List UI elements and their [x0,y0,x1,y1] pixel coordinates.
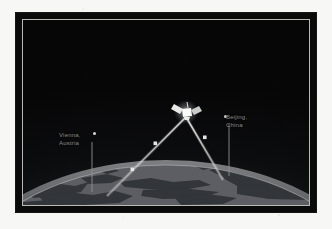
page-background: Vienna, Austria Beijing, China [0,0,332,229]
label-beijing: Beijing, China [226,114,247,129]
label-beijing-line-2: China [226,122,247,130]
ground-station-marker-icon [93,132,96,135]
photo-frame: Vienna, Austria Beijing, China [16,13,316,212]
label-vienna: Vienna, Austria [59,132,81,147]
beam-waypoint-marker [154,142,158,146]
label-beijing-line-1: Beijing, [226,114,247,122]
label-vienna-line-1: Vienna, [59,132,81,140]
space-scene: Vienna, Austria Beijing, China [23,20,309,205]
beam-waypoint-marker [131,168,135,172]
beam-waypoint-marker [203,136,207,140]
satellite-transmitter-horn [184,117,190,120]
label-vienna-line-2: Austria [59,140,81,148]
satellite-icon [171,100,202,124]
scene-illustration [23,20,309,205]
earth-limb [23,156,309,205]
satellite-body [182,108,192,117]
